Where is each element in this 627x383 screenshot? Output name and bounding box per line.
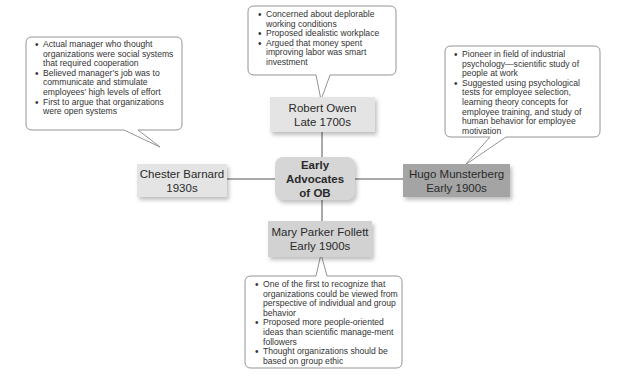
callout-follett: One of the first to recognize that organ… — [255, 280, 401, 366]
callout-barnard: Actual manager who thought organizations… — [35, 40, 180, 117]
munsterberg-name: Hugo Munsterberg — [409, 167, 504, 181]
node-robert-owen: Robert Owen Late 1700s — [270, 97, 375, 132]
node-center-early-advocates: Early Advocates of OB — [275, 157, 355, 200]
barnard-era: 1930s — [166, 181, 197, 195]
node-mary-parker-follett: Mary Parker Follett Early 1900s — [268, 221, 372, 257]
follett-name: Mary Parker Follett — [271, 225, 368, 239]
munsterberg-era: Early 1900s — [426, 181, 487, 195]
barnard-name: Chester Barnard — [140, 167, 224, 181]
callout-munsterberg: Pioneer in field of industrial psycholog… — [454, 50, 598, 136]
follett-era: Early 1900s — [290, 239, 351, 253]
owen-name: Robert Owen — [289, 101, 357, 115]
barnard-point: Actual manager who thought organizations… — [35, 40, 180, 69]
follett-point: Proposed more people-oriented ideas than… — [255, 318, 401, 347]
owen-point: Concerned about deplorable working condi… — [258, 10, 394, 29]
follett-point: Thought organizations should be based on… — [255, 347, 401, 366]
owen-era: Late 1700s — [294, 115, 351, 129]
center-line2: of OB — [299, 186, 330, 200]
barnard-point: Believed manager’s job was to communicat… — [35, 69, 180, 98]
callout-owen: Concerned about deplorable working condi… — [258, 10, 394, 68]
node-hugo-munsterberg: Hugo Munsterberg Early 1900s — [403, 164, 510, 197]
node-chester-barnard: Chester Barnard 1930s — [137, 164, 227, 197]
follett-point: One of the first to recognize that organ… — [255, 280, 401, 318]
owen-point: Argued that money spent improving labor … — [258, 39, 394, 68]
barnard-point: First to argue that organizations were o… — [35, 98, 180, 117]
center-line1: Early Advocates — [275, 158, 355, 186]
munsterberg-point: Suggested using psychological tests for … — [454, 79, 598, 137]
munsterberg-point: Pioneer in field of industrial psycholog… — [454, 50, 598, 79]
